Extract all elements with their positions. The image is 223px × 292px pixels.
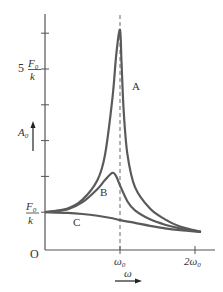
k-denominator-bottom: k — [28, 214, 34, 226]
k-denominator-top: k — [30, 70, 36, 82]
curve-a — [45, 30, 201, 232]
curve-label-b: B — [100, 186, 107, 198]
y-axis-label: A0 — [17, 126, 29, 140]
curve-label-a: A — [132, 80, 140, 92]
f0-numerator-top: F0 — [27, 57, 39, 71]
y-arrow-head-icon — [31, 121, 36, 128]
curve-label-c: C — [73, 216, 80, 228]
resonance-chart: 5 F0 k F0 k A0 O ω0 2ω0 ω A B C — [0, 0, 223, 292]
two-omega0-label: 2ω0 — [184, 255, 201, 269]
x-arrow-head-icon — [135, 279, 142, 284]
origin-label: O — [30, 247, 39, 261]
f0-numerator-bottom: F0 — [25, 200, 37, 214]
x-axis-label: ω — [124, 267, 132, 279]
curve-b — [45, 173, 201, 232]
five-label: 5 — [18, 61, 24, 75]
curve-c — [45, 212, 201, 232]
curves — [45, 30, 201, 232]
